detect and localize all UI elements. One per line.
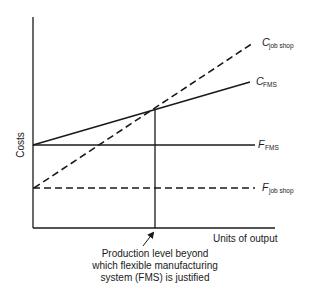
- break-even-annotation: Production level beyond which flexible m…: [80, 248, 230, 284]
- annotation-line-2: which flexible manufacturing: [80, 260, 230, 272]
- x-axis-label: Units of output: [213, 233, 278, 244]
- annotation-arrow-icon: [143, 233, 153, 246]
- label-f-fms: F FMS: [258, 138, 279, 151]
- svg-text:F: F: [262, 181, 269, 193]
- svg-text:F: F: [258, 138, 265, 150]
- y-axis-label: Costs: [15, 132, 26, 158]
- annotation-line-3: system (FMS) is justified: [80, 272, 230, 284]
- svg-text:FMS: FMS: [265, 144, 279, 151]
- label-f-job-shop: F job shop: [262, 181, 294, 195]
- svg-text:job shop: job shop: [268, 42, 294, 50]
- c-job-shop-line: [34, 43, 253, 188]
- label-c-job-shop: C job shop: [262, 36, 294, 50]
- svg-text:job shop: job shop: [268, 187, 294, 195]
- c-fms-line: [33, 82, 250, 145]
- svg-text:FMS: FMS: [263, 81, 277, 88]
- annotation-line-1: Production level beyond: [80, 248, 230, 260]
- label-c-fms: C FMS: [256, 75, 277, 88]
